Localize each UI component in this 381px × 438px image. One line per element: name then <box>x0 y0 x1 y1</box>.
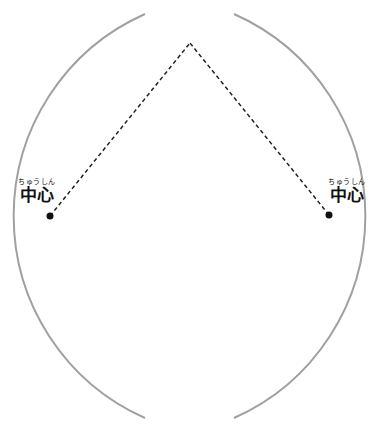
right-center-text: 中心 <box>327 186 367 204</box>
arc-from-right-center <box>14 14 145 418</box>
arc-from-left-center <box>234 14 365 418</box>
diagram-canvas <box>0 0 381 438</box>
left-center-dot <box>47 213 54 220</box>
left-center-label: ちゅうしん 中心 <box>17 178 57 204</box>
right-center-dot <box>326 212 333 219</box>
radius-left-dashed <box>50 43 190 216</box>
right-center-label: ちゅうしん 中心 <box>327 178 367 204</box>
left-center-text: 中心 <box>17 186 57 204</box>
